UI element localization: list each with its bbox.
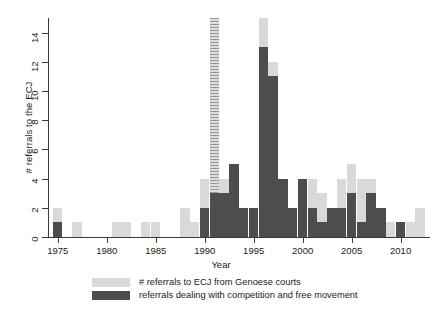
legend-item-total: # referrals to ECJ from Genoese courts bbox=[0, 277, 442, 287]
x-tick bbox=[254, 238, 255, 243]
y-tick bbox=[42, 237, 48, 238]
bar-total bbox=[415, 208, 424, 237]
x-tick-label: 2000 bbox=[283, 245, 323, 256]
legend-swatch-light bbox=[92, 278, 130, 287]
bar-total bbox=[141, 222, 150, 237]
x-axis-title: Year bbox=[0, 259, 442, 270]
x-tick-label: 2005 bbox=[332, 245, 372, 256]
bar-competition bbox=[347, 193, 356, 237]
y-tick-label: 8 bbox=[29, 120, 40, 146]
x-tick-label: 1995 bbox=[234, 245, 274, 256]
legend-item-competition: referrals dealing with competition and f… bbox=[0, 290, 442, 300]
y-tick-label: 4 bbox=[29, 178, 40, 204]
bar-competition bbox=[278, 179, 287, 237]
bar-total bbox=[180, 208, 189, 237]
x-tick-label: 1980 bbox=[87, 245, 127, 256]
bar-competition bbox=[366, 193, 375, 237]
bar-total bbox=[406, 222, 415, 237]
bar-competition bbox=[229, 164, 238, 237]
y-tick-label: 12 bbox=[29, 61, 40, 87]
bar-competition bbox=[288, 208, 297, 237]
y-tick-label: 10 bbox=[29, 91, 40, 117]
x-tick bbox=[401, 238, 402, 243]
x-tick bbox=[205, 238, 206, 243]
x-tick-label: 2010 bbox=[381, 245, 421, 256]
bar-competition bbox=[396, 222, 405, 237]
x-tick bbox=[352, 238, 353, 243]
y-tick-label: 6 bbox=[29, 149, 40, 175]
bar-competition bbox=[357, 222, 366, 237]
bar-competition bbox=[376, 208, 385, 237]
x-tick bbox=[58, 238, 59, 243]
chart-figure: # referrals to the ECJ 02468101214 19751… bbox=[0, 0, 442, 322]
bar-competition bbox=[239, 208, 248, 237]
bar-total bbox=[151, 222, 160, 237]
bar-total bbox=[121, 222, 130, 237]
bar-competition bbox=[317, 222, 326, 237]
bar-competition bbox=[53, 222, 62, 237]
bar-competition bbox=[337, 208, 346, 237]
chart-legend: # referrals to ECJ from Genoese courts r… bbox=[0, 277, 442, 303]
bar-competition bbox=[249, 208, 258, 237]
bar-total bbox=[112, 222, 121, 237]
x-tick bbox=[303, 238, 304, 243]
plot-area bbox=[48, 18, 430, 237]
bar-competition bbox=[200, 208, 209, 237]
x-tick-label: 1985 bbox=[136, 245, 176, 256]
bar-competition bbox=[298, 179, 307, 237]
bar-competition bbox=[259, 47, 268, 237]
bar-total bbox=[72, 222, 81, 237]
bar-competition bbox=[219, 193, 228, 237]
x-axis-line bbox=[48, 237, 430, 238]
x-tick bbox=[107, 238, 108, 243]
x-tick bbox=[156, 238, 157, 243]
y-tick-label: 14 bbox=[29, 32, 40, 58]
x-tick-label: 1990 bbox=[185, 245, 225, 256]
bar-competition bbox=[308, 208, 317, 237]
bar-competition bbox=[210, 193, 219, 237]
bar-competition bbox=[327, 208, 336, 237]
bar-total bbox=[386, 222, 395, 237]
bar-competition bbox=[268, 76, 277, 237]
legend-swatch-dark bbox=[92, 291, 130, 300]
bar-total bbox=[190, 222, 199, 237]
legend-label-competition: referrals dealing with competition and f… bbox=[139, 290, 358, 300]
legend-label-total: # referrals to ECJ from Genoese courts bbox=[139, 277, 301, 287]
x-tick-label: 1975 bbox=[38, 245, 78, 256]
y-tick-label: 2 bbox=[29, 207, 40, 233]
